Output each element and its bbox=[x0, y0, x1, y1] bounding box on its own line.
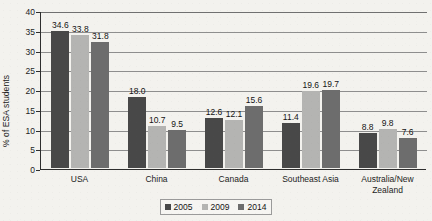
y-tick-label: 25 bbox=[26, 66, 35, 76]
plot-area: 34.633.831.818.010.79.512.612.115.611.41… bbox=[40, 12, 426, 170]
y-tick-label: 10 bbox=[26, 126, 35, 136]
bar-value-label: 9.8 bbox=[382, 118, 394, 128]
y-tick-label: 5 bbox=[30, 145, 35, 155]
legend-label: 2005 bbox=[174, 202, 193, 212]
bar[interactable]: 19.7 bbox=[322, 90, 340, 168]
bar[interactable]: 12.6 bbox=[205, 118, 223, 168]
x-axis-label: Australia/NewZealand bbox=[349, 174, 426, 196]
y-axis-ticks: 0510152025303540 bbox=[0, 12, 40, 170]
bar[interactable]: 18.0 bbox=[128, 97, 146, 168]
x-axis-label: USA bbox=[41, 174, 118, 196]
y-tick-label: 0 bbox=[30, 165, 35, 175]
bar-slot: 9.8 bbox=[379, 129, 397, 168]
bar-group: 12.612.115.6 bbox=[196, 12, 273, 168]
y-tick-label: 15 bbox=[26, 106, 35, 116]
x-axis-label-line: Canada bbox=[195, 174, 272, 185]
legend-box: 200520092014 bbox=[160, 199, 273, 215]
bar-group: 34.633.831.8 bbox=[42, 12, 119, 168]
bar-slot: 10.7 bbox=[148, 126, 166, 168]
bar-group: 11.419.619.7 bbox=[272, 12, 349, 168]
legend: 200520092014 bbox=[0, 199, 432, 215]
bar-slot: 9.5 bbox=[168, 130, 186, 168]
bar-slot: 19.6 bbox=[302, 91, 320, 168]
bar-groups: 34.633.831.818.010.79.512.612.115.611.41… bbox=[42, 12, 426, 168]
bar[interactable]: 11.4 bbox=[282, 123, 300, 168]
bar[interactable]: 7.6 bbox=[399, 138, 417, 168]
legend-item[interactable]: 2014 bbox=[238, 202, 266, 212]
x-axis-label-line: USA bbox=[41, 174, 118, 185]
x-axis-label-line: Southeast Asia bbox=[272, 174, 349, 185]
legend-swatch-icon bbox=[202, 204, 208, 210]
bar[interactable]: 9.5 bbox=[168, 130, 186, 168]
y-tick-label: 35 bbox=[26, 27, 35, 37]
bar-group: 8.89.87.6 bbox=[349, 12, 426, 168]
legend-swatch-icon bbox=[165, 204, 171, 210]
bar-value-label: 19.6 bbox=[303, 80, 320, 90]
x-axis-label-line: Zealand bbox=[349, 185, 426, 196]
bar-slot: 18.0 bbox=[128, 97, 146, 168]
bar[interactable]: 19.6 bbox=[302, 91, 320, 168]
bar-chart-figure: % of ESA students 0510152025303540 34.63… bbox=[0, 0, 432, 221]
bar-value-label: 12.6 bbox=[206, 107, 223, 117]
bar[interactable]: 15.6 bbox=[245, 106, 263, 168]
bar-slot: 7.6 bbox=[399, 138, 417, 168]
bar-value-label: 31.8 bbox=[92, 31, 109, 41]
bar-value-label: 9.5 bbox=[171, 119, 183, 129]
bar[interactable]: 34.6 bbox=[51, 31, 69, 168]
bar-slot: 12.1 bbox=[225, 120, 243, 168]
bar-slot: 8.8 bbox=[359, 133, 377, 168]
y-tick-mark bbox=[36, 170, 40, 171]
legend-item[interactable]: 2009 bbox=[202, 202, 230, 212]
bar-value-label: 7.6 bbox=[402, 127, 414, 137]
y-tick-label: 40 bbox=[26, 7, 35, 17]
bar-slot: 15.6 bbox=[245, 106, 263, 168]
bar-value-label: 10.7 bbox=[149, 115, 166, 125]
legend-item[interactable]: 2005 bbox=[165, 202, 193, 212]
bar-value-label: 19.7 bbox=[323, 79, 340, 89]
bar-value-label: 33.8 bbox=[72, 24, 89, 34]
bar-value-label: 8.8 bbox=[362, 122, 374, 132]
bar-group: 18.010.79.5 bbox=[119, 12, 196, 168]
bar[interactable]: 10.7 bbox=[148, 126, 166, 168]
bar-value-label: 18.0 bbox=[129, 86, 146, 96]
bar[interactable]: 12.1 bbox=[225, 120, 243, 168]
bar-value-label: 34.6 bbox=[52, 20, 69, 30]
y-tick-label: 30 bbox=[26, 47, 35, 57]
bar-slot: 31.8 bbox=[91, 42, 109, 168]
bar[interactable]: 9.8 bbox=[379, 129, 397, 168]
bar-slot: 12.6 bbox=[205, 118, 223, 168]
bar-slot: 19.7 bbox=[322, 90, 340, 168]
bar-value-label: 15.6 bbox=[246, 95, 263, 105]
bar[interactable]: 8.8 bbox=[359, 133, 377, 168]
bar-slot: 11.4 bbox=[282, 123, 300, 168]
legend-label: 2014 bbox=[247, 202, 266, 212]
x-axis-label-line: China bbox=[118, 174, 195, 185]
x-axis-labels: USAChinaCanadaSoutheast AsiaAustralia/Ne… bbox=[41, 174, 426, 196]
bar[interactable]: 31.8 bbox=[91, 42, 109, 168]
bar-slot: 34.6 bbox=[51, 31, 69, 168]
bar-value-label: 12.1 bbox=[226, 109, 243, 119]
legend-label: 2009 bbox=[211, 202, 230, 212]
x-axis-label: China bbox=[118, 174, 195, 196]
y-tick-label: 20 bbox=[26, 86, 35, 96]
bar-slot: 33.8 bbox=[71, 35, 89, 169]
bar[interactable]: 33.8 bbox=[71, 35, 89, 169]
bar-value-label: 11.4 bbox=[283, 112, 299, 122]
x-axis-label: Canada bbox=[195, 174, 272, 196]
x-axis-label: Southeast Asia bbox=[272, 174, 349, 196]
legend-swatch-icon bbox=[238, 204, 244, 210]
x-axis-label-line: Australia/New bbox=[349, 174, 426, 185]
